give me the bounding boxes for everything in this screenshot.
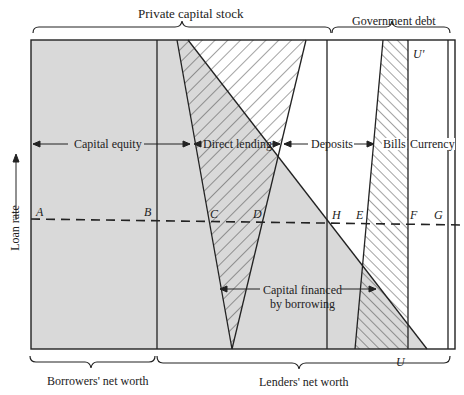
brace-borrowers — [30, 356, 155, 368]
label-lenders-net-worth: Lenders' net worth — [259, 376, 348, 388]
point-C: C — [210, 208, 218, 220]
point-B: B — [144, 206, 151, 218]
label-capital-financed: Capital financed by borrowing — [263, 283, 342, 311]
label-deposits: Deposits — [311, 138, 353, 150]
point-U-prime: U' — [413, 48, 424, 60]
label-direct-lending: Direct lending — [203, 138, 272, 150]
brace-private-capital — [33, 21, 331, 33]
label-borrowers-net-worth: Borrowers' net worth — [47, 375, 148, 387]
bills-hatch — [355, 40, 408, 349]
diagram-canvas — [0, 0, 464, 395]
point-E: E — [356, 209, 363, 221]
brace-lenders — [157, 356, 450, 369]
point-D: D — [253, 208, 262, 220]
label-private-capital-stock: Private capital stock — [138, 7, 243, 20]
point-H: H — [332, 209, 341, 221]
label-currency: Currency — [410, 138, 455, 150]
label-bills: Bills — [382, 138, 407, 150]
point-U: U — [396, 356, 405, 368]
label-government-debt: Government debt — [352, 15, 436, 27]
point-F: F — [410, 209, 417, 221]
label-capital-financed-line2: by borrowing — [270, 297, 335, 311]
point-A: A — [36, 206, 43, 218]
label-loan-rate: Loan rate — [9, 203, 21, 253]
label-capital-equity: Capital equity — [72, 138, 144, 150]
point-G: G — [434, 209, 443, 221]
label-capital-financed-line1: Capital financed — [263, 283, 342, 297]
